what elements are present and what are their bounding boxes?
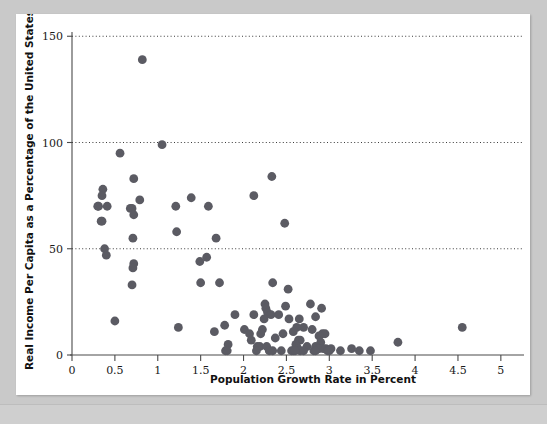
data-point: [306, 300, 315, 309]
data-point: [187, 193, 196, 202]
x-tick-label: 5: [497, 364, 504, 377]
data-point: [299, 323, 308, 332]
data-point: [285, 314, 294, 323]
data-point: [116, 149, 125, 158]
x-axis-title: Population Growth Rate in Percent: [210, 373, 416, 385]
grid-lines: [72, 36, 524, 249]
data-point: [256, 329, 265, 338]
data-point: [280, 219, 289, 228]
data-point: [102, 251, 111, 260]
data-point: [274, 310, 283, 319]
data-point: [279, 329, 288, 338]
data-point: [458, 323, 467, 332]
data-point: [129, 210, 138, 219]
scatter-plot: 00.511.522.533.544.55 050100150 Populati…: [16, 14, 530, 395]
data-point: [268, 278, 277, 287]
data-point: [299, 346, 308, 355]
data-point: [366, 346, 375, 355]
tick-marks: [67, 36, 501, 361]
data-point: [277, 346, 286, 355]
data-point: [308, 325, 317, 334]
data-point: [325, 346, 334, 355]
data-point: [128, 280, 137, 289]
data-point: [347, 344, 356, 353]
data-point: [202, 253, 211, 262]
data-point: [223, 346, 232, 355]
data-point: [260, 314, 269, 323]
x-tick-label: 0: [69, 364, 76, 377]
y-tick-label: 50: [49, 243, 63, 256]
data-point: [311, 346, 320, 355]
chart-svg: 00.511.522.533.544.55 050100150 Populati…: [16, 14, 530, 395]
data-point: [196, 278, 205, 287]
data-point: [94, 202, 103, 211]
y-axis-title: Real Income Per Capita as a Percentage o…: [23, 14, 35, 370]
data-point: [174, 323, 183, 332]
x-tick-label: 4.5: [449, 364, 467, 377]
data-point: [158, 140, 167, 149]
figure-card: 00.511.522.533.544.55 050100150 Populati…: [16, 14, 530, 395]
data-point: [138, 55, 147, 64]
data-point: [98, 191, 107, 200]
data-point: [129, 174, 138, 183]
y-tick-label: 150: [42, 30, 63, 43]
data-point: [215, 278, 224, 287]
data-point: [268, 346, 277, 355]
x-tick-label: 0.5: [106, 364, 124, 377]
data-point: [289, 327, 298, 336]
y-tick-label: 100: [42, 137, 63, 150]
data-point: [110, 317, 119, 326]
data-point: [135, 195, 144, 204]
axes: [70, 32, 524, 355]
data-point: [281, 302, 290, 311]
data-point: [129, 263, 138, 272]
y-tick-label: 0: [56, 349, 63, 362]
data-point: [336, 346, 345, 355]
data-point: [267, 172, 276, 181]
x-tick-label: 1.5: [192, 364, 210, 377]
data-point: [220, 321, 229, 330]
data-point: [271, 334, 280, 343]
data-point: [210, 327, 219, 336]
data-point: [98, 217, 107, 226]
data-point: [204, 202, 213, 211]
data-point: [249, 191, 258, 200]
data-point: [249, 310, 258, 319]
y-tick-labels: 050100150: [42, 30, 63, 362]
data-point: [212, 234, 221, 243]
page-bottom-band: [0, 404, 547, 424]
data-point: [231, 310, 240, 319]
data-point: [311, 312, 320, 321]
data-point: [129, 234, 138, 243]
data-point: [171, 202, 180, 211]
data-point: [355, 346, 364, 355]
data-point: [284, 285, 293, 294]
data-point: [291, 346, 300, 355]
data-point: [295, 314, 304, 323]
data-point: [252, 346, 261, 355]
data-point: [172, 227, 181, 236]
x-tick-label: 1: [154, 364, 161, 377]
data-point: [394, 338, 403, 347]
data-points: [93, 55, 466, 355]
data-point: [317, 304, 326, 313]
data-point: [103, 202, 112, 211]
